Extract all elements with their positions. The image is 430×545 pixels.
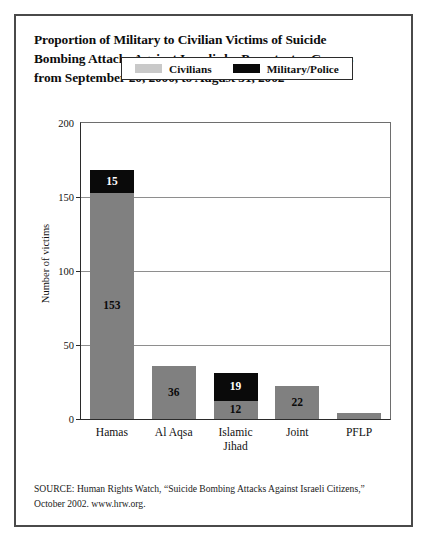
x-axis-category-label: IslamicJihad (218, 426, 252, 455)
bar-segment-civilians[interactable]: 36 (152, 366, 196, 419)
legend-swatch-military (233, 64, 260, 73)
bar-value-label: 15 (106, 176, 118, 188)
bar-segment-civilians[interactable] (337, 413, 381, 419)
bar-value-label: 22 (292, 397, 304, 409)
y-axis-title: Number of victims (40, 199, 51, 329)
y-axis-tick-label: 200 (58, 118, 74, 129)
y-axis-tick-label: 100 (58, 266, 74, 277)
bar-segment-civilians[interactable]: 22 (275, 386, 319, 419)
x-axis-category-label: Al Aqsa (155, 426, 193, 440)
source-line-1: SOURCE: Human Rights Watch, “Suicide Bom… (34, 482, 392, 496)
bar-group[interactable]: 22Joint (275, 123, 319, 419)
chart-legend: Civilians Military/Police (121, 57, 353, 80)
bar-segment-military[interactable]: 15 (90, 170, 134, 192)
bars-layer: 15315Hamas36Al Aqsa1219IslamicJihad22Joi… (81, 123, 390, 419)
bar-value-label: 36 (168, 387, 180, 399)
x-axis-category-label: Hamas (96, 426, 128, 440)
source-line-2: October 2002. www.hrw.org. (34, 497, 392, 511)
y-axis-tick-label: 50 (64, 340, 75, 351)
bar-segment-civilians[interactable]: 12 (214, 401, 258, 419)
plot-area: 050100150200 15315Hamas36Al Aqsa1219Isla… (80, 122, 391, 420)
figure-frame: Proportion of Military to Civilian Victi… (14, 14, 413, 527)
legend-entry-military: Military/Police (233, 63, 339, 75)
bar-group[interactable]: PFLP (337, 123, 381, 419)
bar-value-label: 153 (103, 300, 120, 312)
y-axis-tick-label: 0 (69, 414, 74, 425)
bar-group[interactable]: 1219IslamicJihad (214, 123, 258, 419)
legend-label-civilians: Civilians (169, 63, 212, 75)
bar-value-label: 12 (230, 404, 242, 416)
chart-container: Number of victims 050100150200 15315Hama… (16, 16, 411, 525)
legend-label-military: Military/Police (267, 63, 339, 75)
source-note: SOURCE: Human Rights Watch, “Suicide Bom… (34, 482, 392, 511)
bar-segment-civilians[interactable]: 153 (90, 193, 134, 419)
bar-value-label: 19 (230, 381, 242, 393)
x-axis-category-label: Joint (286, 426, 309, 440)
legend-entry-civilians: Civilians (135, 63, 212, 75)
y-axis-tick-label: 150 (58, 192, 74, 203)
bar-group[interactable]: 15315Hamas (90, 123, 134, 419)
legend-swatch-civilians (135, 64, 162, 73)
bar-segment-military[interactable]: 19 (214, 373, 258, 401)
bar-group[interactable]: 36Al Aqsa (152, 123, 196, 419)
y-axis-tick-mark (76, 419, 81, 420)
x-axis-category-label: PFLP (346, 426, 372, 440)
